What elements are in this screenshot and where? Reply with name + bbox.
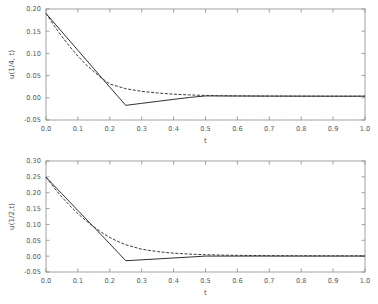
series-line-exact: [46, 13, 365, 96]
y-tick-label: 0.20: [26, 5, 41, 13]
x-axis-label: t: [204, 288, 207, 297]
x-tick-label: 0.3: [136, 277, 147, 285]
y-tick-label: 0.15: [26, 205, 41, 213]
x-tick-label: 0.9: [328, 125, 339, 133]
series-line-exact: [46, 177, 365, 256]
x-tick-label: 0.2: [105, 277, 116, 285]
x-axis-label: t: [204, 136, 207, 145]
series-line-numerical: [46, 13, 365, 105]
x-tick-label: 0.6: [232, 277, 243, 285]
y-tick-label: -0.05: [24, 268, 41, 276]
x-tick-label: 0.5: [200, 125, 211, 133]
chart-panel-upper: 0.00.10.20.30.40.50.60.70.80.91.0-0.050.…: [0, 0, 378, 152]
plot-frame: [46, 161, 365, 272]
x-tick-label: 0.1: [73, 277, 84, 285]
plot-frame: [46, 9, 365, 120]
y-tick-label: 0.15: [26, 28, 41, 36]
plot-area-lower: 0.00.10.20.30.40.50.60.70.80.91.0-0.050.…: [0, 152, 378, 304]
figure-container: 0.00.10.20.30.40.50.60.70.80.91.0-0.050.…: [0, 0, 378, 304]
y-tick-label: 0.05: [26, 72, 41, 80]
series-line-numerical: [46, 177, 365, 261]
x-tick-label: 0.6: [232, 125, 243, 133]
x-tick-label: 0.8: [296, 125, 307, 133]
x-tick-label: 1.0: [360, 277, 371, 285]
y-tick-label: 0.05: [26, 237, 41, 245]
x-tick-label: 0.2: [105, 125, 116, 133]
x-tick-label: 0.0: [41, 125, 52, 133]
y-tick-label: 0.10: [26, 50, 41, 58]
x-tick-label: 0.7: [264, 125, 275, 133]
y-tick-label: 0.25: [26, 173, 41, 181]
chart-panel-lower: 0.00.10.20.30.40.50.60.70.80.91.0-0.050.…: [0, 152, 378, 304]
x-tick-label: 0.5: [200, 277, 211, 285]
x-tick-label: 0.1: [73, 125, 84, 133]
x-tick-label: 0.4: [168, 125, 179, 133]
y-axis-label: u(1/4, t): [7, 50, 16, 79]
x-tick-label: 1.0: [360, 125, 371, 133]
x-tick-label: 0.8: [296, 277, 307, 285]
x-tick-label: 0.0: [41, 277, 52, 285]
y-tick-label: 0.20: [26, 189, 41, 197]
x-tick-label: 0.4: [168, 277, 179, 285]
plot-area-upper: 0.00.10.20.30.40.50.60.70.80.91.0-0.050.…: [0, 0, 378, 152]
y-tick-label: 0.00: [26, 94, 41, 102]
y-tick-label: -0.05: [24, 116, 41, 124]
x-tick-label: 0.3: [136, 125, 147, 133]
y-tick-label: 0.10: [26, 221, 41, 229]
y-tick-label: 0.00: [26, 253, 41, 261]
y-axis-label: u(1/2,t): [7, 203, 16, 230]
x-tick-label: 0.7: [264, 277, 275, 285]
y-tick-label: 0.30: [26, 157, 41, 165]
x-tick-label: 0.9: [328, 277, 339, 285]
